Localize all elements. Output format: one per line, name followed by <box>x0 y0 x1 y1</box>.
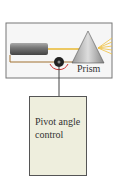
prism-label: Prism <box>77 63 100 74</box>
control-label: Pivot angle control <box>35 115 87 141</box>
collimator-tube <box>10 43 48 55</box>
pivot-control-box: Pivot angle control <box>29 96 87 176</box>
